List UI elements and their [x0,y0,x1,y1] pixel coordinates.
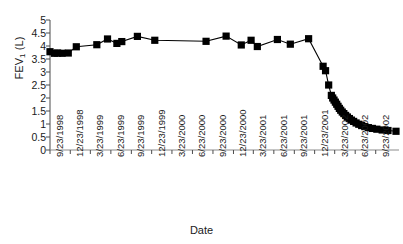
x-tick-label: 6/23/1999 [115,115,126,157]
x-axis-tick-labels: 9/23/199812/23/19983/23/19996/23/19999/2… [0,0,403,244]
x-tick-label: 3/23/1999 [94,115,105,157]
x-tick-label: 9/23/1999 [135,115,146,157]
x-axis-label: Date [0,224,403,236]
x-tick-label: 6/23/2002 [359,115,370,157]
x-tick-label: 3/23/2002 [339,115,350,157]
x-tick-label: 3/23/2000 [176,115,187,157]
x-tick-label: 12/23/1999 [156,109,167,157]
x-tick-label: 9/23/2000 [217,115,228,157]
x-tick-label: 9/23/2002 [380,115,391,157]
x-tick-label: 12/23/2000 [237,109,248,157]
x-tick-label: 12/23/1998 [74,109,85,157]
x-tick-label: 9/23/1998 [54,115,65,157]
fev1-chart: FEV1 (L) 00.511.522.533.544.55 9/23/1998… [0,0,403,244]
x-tick-label: 9/23/2001 [298,115,309,157]
x-tick-label: 6/23/2001 [278,115,289,157]
x-tick-label: 6/23/2000 [196,115,207,157]
x-tick-label: 12/23/2001 [319,109,330,157]
x-tick-label: 3/23/2001 [257,115,268,157]
